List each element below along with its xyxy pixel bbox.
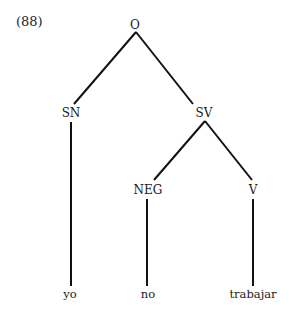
- terminal-no: no: [141, 289, 155, 301]
- node-v: V: [249, 184, 258, 196]
- branch-sv-v: [205, 121, 252, 180]
- branch-o-sv: [136, 32, 193, 104]
- node-sv: SV: [196, 107, 213, 119]
- node-o: O: [130, 19, 140, 31]
- example-number: (88): [16, 15, 43, 28]
- terminal-trabajar: trabajar: [229, 289, 276, 301]
- terminal-yo: yo: [63, 289, 76, 301]
- syntax-tree-diagram: (88) O SN SV NEG V yo no trabajar: [0, 0, 289, 321]
- node-sn: SN: [62, 107, 81, 119]
- branch-sv-neg: [154, 121, 205, 180]
- tree-branches: [0, 0, 289, 321]
- branch-o-sn: [74, 32, 136, 104]
- node-neg: NEG: [134, 184, 163, 196]
